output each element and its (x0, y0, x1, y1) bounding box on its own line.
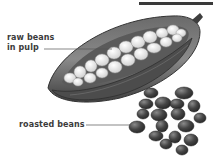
roasted-beans-label: roasted beans (19, 120, 85, 130)
raw-beans-label: raw beans in pulp (7, 33, 54, 53)
cacao-illustration: raw beans in pulp roasted beans (0, 0, 213, 161)
raw-beans-label-line1: raw beans (7, 33, 54, 43)
cacao-pod-illustration (0, 0, 213, 161)
roasted-beans-pile (129, 87, 206, 155)
raw-beans-label-line2: in pulp (7, 43, 54, 53)
